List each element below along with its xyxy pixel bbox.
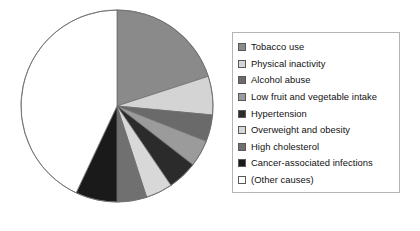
legend-item[interactable]: Overweight and obesity [238, 122, 396, 139]
legend-item[interactable]: Hypertension [238, 105, 396, 122]
legend-swatch-icon [238, 110, 246, 118]
legend-item-label: Physical inactivity [251, 59, 325, 69]
legend-swatch-icon [238, 43, 246, 51]
legend-item[interactable]: Physical inactivity [238, 56, 396, 73]
pie-chart-plot-area [17, 6, 217, 206]
legend-swatch-icon [238, 176, 246, 184]
legend-swatch-icon [238, 126, 246, 134]
legend-item-list: Tobacco usePhysical inactivityAlcohol ab… [238, 39, 396, 188]
legend-item[interactable]: Cancer-associated infections [238, 155, 396, 172]
legend-item[interactable]: Tobacco use [238, 39, 396, 56]
legend-item-label: Tobacco use [251, 42, 304, 52]
legend-item-label: Low fruit and vegetable intake [251, 92, 377, 102]
legend-item-label: (Other causes) [251, 175, 314, 185]
legend-swatch-icon [238, 93, 246, 101]
legend-swatch-icon [238, 76, 246, 84]
pie-slice-group [21, 10, 213, 202]
legend-swatch-icon [238, 60, 246, 68]
legend-item[interactable]: Low fruit and vegetable intake [238, 89, 396, 106]
legend-item-label: Alcohol abuse [251, 75, 311, 85]
legend-item-label: High cholesterol [251, 142, 319, 152]
legend-item[interactable]: (Other causes) [238, 172, 396, 189]
pie-chart-svg [17, 6, 217, 206]
legend-item[interactable]: High cholesterol [238, 139, 396, 156]
legend-swatch-icon [238, 143, 246, 151]
legend-item-label: Overweight and obesity [251, 125, 350, 135]
legend-item-label: Hypertension [251, 109, 307, 119]
chart-legend: Tobacco usePhysical inactivityAlcohol ab… [232, 32, 400, 193]
pie-chart-figure: Tobacco usePhysical inactivityAlcohol ab… [0, 0, 420, 231]
legend-item[interactable]: Alcohol abuse [238, 72, 396, 89]
legend-swatch-icon [238, 159, 246, 167]
legend-item-label: Cancer-associated infections [251, 158, 373, 168]
